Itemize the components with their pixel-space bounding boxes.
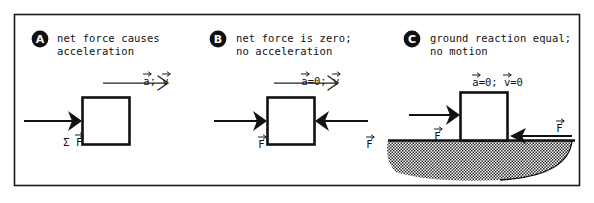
vector-F-symbol: F	[258, 138, 264, 150]
panel-c-caption-line1: ground reaction equal;	[430, 32, 571, 46]
acceleration-symbol: a	[472, 76, 478, 88]
vector-F-symbol: F	[556, 122, 562, 134]
kinematics-separator-a: ;	[150, 75, 163, 87]
kinematics-separator-c: =0;	[479, 76, 504, 88]
vector-v-symbol: v	[504, 76, 510, 88]
vector-F-symbol: F	[366, 138, 372, 150]
panel-a-caption-line1: net force causes	[57, 32, 160, 46]
force-symbol: F	[434, 130, 440, 142]
panel-c-marker-letter: C	[408, 33, 416, 46]
panel-c-applied-force-label: F	[409, 118, 441, 154]
panel-b-caption-line1: net force is zero;	[236, 32, 352, 46]
velocity-symbol: v	[162, 75, 168, 87]
acceleration-symbol: a	[143, 75, 149, 87]
velocity-symbol: v	[333, 75, 339, 87]
panel-b-caption-line2: no acceleration	[236, 45, 332, 59]
kinematics-zero-c: =0	[510, 76, 523, 88]
vector-a-symbol: a	[143, 75, 149, 87]
force-symbol: F	[76, 136, 82, 148]
kinematics-separator-b: =0;	[308, 75, 333, 87]
vector-F-symbol: F	[434, 130, 440, 142]
panel-a-caption-line2: acceleration	[57, 45, 134, 59]
panel-c-reaction-force-label: F	[531, 110, 563, 146]
vector-v-symbol: v	[162, 75, 168, 87]
vector-F-symbol: F	[76, 136, 82, 148]
panel-b-kinematics-label: a=0; v	[276, 63, 339, 99]
physics-diagram-figure: A B	[0, 0, 594, 203]
force-symbol: F	[258, 138, 264, 150]
panel-a-block	[83, 98, 130, 145]
panel-c-caption-line2: no motion	[430, 45, 488, 59]
vector-a-symbol: a	[472, 76, 478, 88]
vector-v-symbol: v	[333, 75, 339, 87]
diagram-canvas: A B	[0, 0, 594, 203]
panel-b-right-force-label: F	[341, 126, 373, 162]
panel-a-marker-letter: A	[36, 33, 45, 46]
vector-a-symbol: a	[301, 75, 307, 87]
panel-b-marker-letter: B	[214, 33, 222, 46]
panel-b-left-force-label: F	[233, 126, 265, 162]
panel-a-kinematics-label: a; v	[118, 63, 169, 99]
acceleration-symbol: a	[301, 75, 307, 87]
panel-b-block	[268, 98, 315, 145]
force-symbol: F	[556, 122, 562, 134]
velocity-symbol: v	[504, 76, 510, 88]
panel-a-net-force-label: Σ F	[38, 124, 82, 160]
panel-c-kinematics-label: a=0; v=0	[447, 64, 523, 100]
force-symbol: F	[366, 138, 372, 150]
